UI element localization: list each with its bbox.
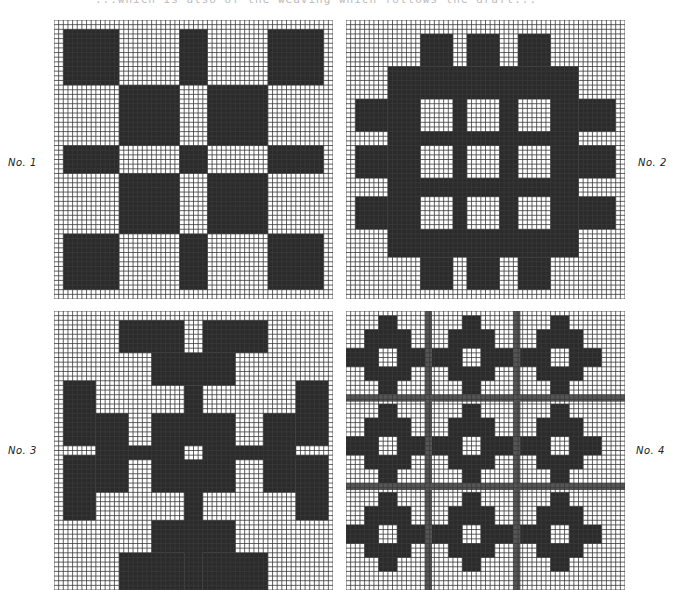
pattern-label-3: No. 3	[8, 445, 37, 456]
pattern-panel-4	[346, 311, 625, 590]
pattern-label-1: No. 1	[8, 157, 37, 168]
pattern-panel-3	[54, 311, 333, 590]
pattern-label-2: No. 2	[638, 157, 667, 168]
page-caption-partial: ...which is also of the weaving which fo…	[95, 0, 537, 6]
pattern-label-4: No. 4	[636, 445, 665, 456]
pattern-panel-2	[346, 20, 625, 299]
pattern-panel-1	[54, 20, 333, 299]
